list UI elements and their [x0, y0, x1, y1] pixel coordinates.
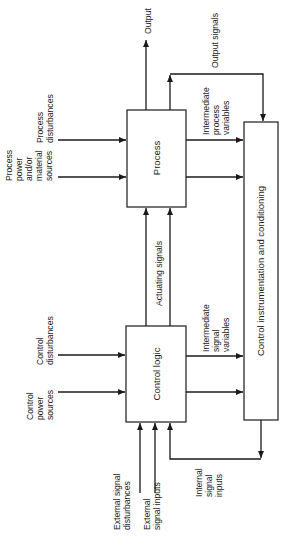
internal-signal-inputs-arrow [170, 423, 261, 459]
svg-text:signal inputs: signal inputs [152, 482, 162, 530]
internal-signal-inputs-label: Internal signal inputs [194, 468, 224, 497]
instrumentation-label: Control instrumentation and conditioning [255, 186, 266, 356]
process-power-label: Process power and/or material sources [4, 150, 54, 181]
svg-text:Intermediate: Intermediate [201, 87, 211, 135]
svg-text:power: power [35, 396, 45, 420]
actuating-signals-label: Actuating signals [154, 241, 164, 306]
svg-text:Control: Control [35, 337, 45, 365]
control-power-label: Control power sources [25, 390, 55, 420]
svg-text:Internal: Internal [194, 468, 204, 497]
external-signal-disturbances-label: External signal disturbances [112, 474, 132, 530]
svg-text:variables: variables [221, 318, 231, 352]
svg-text:sources: sources [45, 390, 55, 420]
external-signal-inputs-label: External signal inputs [142, 482, 162, 530]
svg-text:External: External [142, 498, 152, 530]
block-diagram: Process Control logic Control instrument… [0, 0, 288, 537]
svg-text:disturbances: disturbances [45, 94, 55, 143]
svg-text:sources: sources [44, 151, 54, 181]
svg-text:External signal: External signal [112, 474, 122, 530]
svg-text:and/or: and/or [24, 156, 34, 181]
intermediate-process-variables-label: Intermediate process variables [201, 87, 231, 135]
svg-text:Process: Process [4, 150, 14, 181]
svg-text:signal: signal [204, 474, 214, 497]
process-disturbances-label: Process disturbances [35, 94, 55, 143]
svg-text:disturbances: disturbances [45, 316, 55, 365]
output-signals-label: Output signals [210, 13, 220, 68]
svg-text:signal: signal [211, 329, 221, 352]
svg-text:variables: variables [221, 101, 231, 135]
svg-text:Control: Control [25, 392, 35, 420]
intermediate-signal-variables-label: Intermediate signal variables [201, 304, 231, 352]
svg-text:inputs: inputs [214, 474, 224, 497]
svg-text:material: material [34, 150, 44, 181]
output-label: Output [143, 8, 153, 34]
control-disturbances-label: Control disturbances [35, 316, 55, 365]
svg-text:disturbances: disturbances [122, 481, 132, 530]
control-logic-label: Control logic [151, 347, 162, 400]
svg-text:process: process [211, 105, 221, 135]
svg-text:Process: Process [35, 112, 45, 143]
svg-text:power: power [14, 157, 24, 181]
svg-text:Intermediate: Intermediate [201, 304, 211, 352]
process-label: Process [151, 141, 162, 176]
